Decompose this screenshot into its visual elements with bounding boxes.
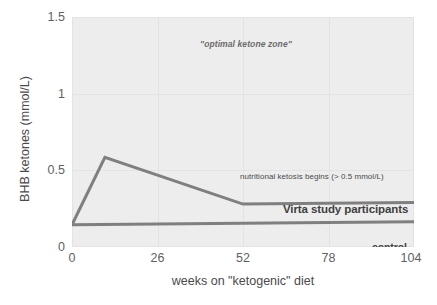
x-axis-tick-labels: 0 26 52 78 104 [72, 251, 414, 269]
series-label-control: control [372, 241, 407, 247]
x-tick-label-78: 78 [322, 251, 336, 265]
annotation-optimal-ketone-zone: "optimal ketone zone" [200, 39, 292, 49]
x-tick-label-26: 26 [151, 251, 165, 265]
series-line-control [72, 222, 414, 225]
y-tick-label-0_5: 0.5 [6, 163, 72, 177]
x-tick-label-0: 0 [69, 251, 76, 265]
plot-area: "optimal ketone zone" nutritional ketosi… [72, 17, 414, 247]
x-tick-label-104: 104 [401, 251, 422, 265]
ketone-line-chart: "optimal ketone zone" nutritional ketosi… [0, 0, 437, 305]
y-tick-label-1: 1 [6, 87, 72, 101]
x-tick-label-52: 52 [236, 251, 250, 265]
series-label-virta-study-participants: Virta study participants [283, 203, 408, 215]
y-axis-tick-labels: 1.5 1 0.5 0 [0, 17, 72, 247]
y-tick-label-1_5: 1.5 [6, 10, 72, 24]
x-axis-title: weeks on "ketogenic" diet [72, 274, 414, 288]
y-tick-label-0: 0 [6, 240, 72, 254]
y-axis-title: BHB ketones (mmol/L) [18, 49, 32, 229]
annotation-nutritional-ketosis-threshold: nutritional ketosis begins (> 0.5 mmol/L… [240, 172, 384, 181]
